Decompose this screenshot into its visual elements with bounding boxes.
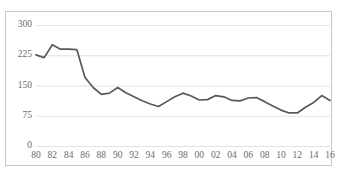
- x-tick-label-00: 00: [191, 150, 207, 160]
- y-tick-label-300: 300: [6, 19, 32, 29]
- x-tick-label-80: 80: [28, 150, 44, 160]
- y-tick-label-225: 225: [6, 49, 32, 59]
- x-tick-label-10: 10: [273, 150, 289, 160]
- x-tick-label-84: 84: [61, 150, 77, 160]
- x-tick-label-82: 82: [44, 150, 60, 160]
- line-series-1: [36, 45, 330, 113]
- chart-plot-area: [6, 12, 331, 165]
- x-tick-label-96: 96: [159, 150, 175, 160]
- gridlines: [36, 26, 330, 147]
- x-tick-label-14: 14: [306, 150, 322, 160]
- x-tick-label-90: 90: [110, 150, 126, 160]
- y-tick-label-150: 150: [6, 80, 32, 90]
- x-tick-label-92: 92: [126, 150, 142, 160]
- data-series-group: [36, 45, 330, 113]
- x-tick-label-12: 12: [289, 150, 305, 160]
- x-tick-label-94: 94: [142, 150, 158, 160]
- chart-frame: 075150225300 808284868890929496980002040…: [5, 11, 332, 166]
- x-tick-label-88: 88: [93, 150, 109, 160]
- x-tick-label-02: 02: [208, 150, 224, 160]
- x-tick-label-98: 98: [175, 150, 191, 160]
- x-tick-label-04: 04: [224, 150, 240, 160]
- x-tick-label-16: 16: [322, 150, 338, 160]
- y-tick-label-75: 75: [6, 110, 32, 120]
- x-tick-label-86: 86: [77, 150, 93, 160]
- x-tick-label-06: 06: [240, 150, 256, 160]
- y-tick-label-0: 0: [6, 140, 32, 150]
- x-tick-label-08: 08: [257, 150, 273, 160]
